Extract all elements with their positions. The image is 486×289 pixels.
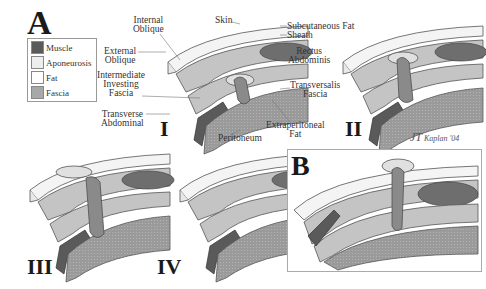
- label-transverse-abdominal: Transverse Abdominal: [101, 110, 144, 128]
- label-external-oblique: External Oblique: [104, 47, 136, 65]
- label-skin: Skin: [215, 16, 232, 25]
- panel-b-box: B: [287, 149, 482, 272]
- stage-label-ii: II: [345, 118, 362, 140]
- artist-signature: JT Kaplan '04: [410, 130, 459, 145]
- stage-label-iv: IV: [157, 256, 181, 278]
- label-extraperitoneal-fat: Extraperitoneal Fat: [266, 121, 325, 139]
- label-transversalis-fascia: Transversalis Fascia: [290, 81, 340, 99]
- label-internal-oblique: Internal Oblique: [133, 16, 164, 34]
- stage-label-iii: III: [27, 256, 53, 278]
- label-sheath: Sheath: [287, 31, 313, 40]
- label-peritoneum: Peritoneum: [218, 134, 262, 143]
- label-intermediate-investing-fascia: Intermediate Investing Fascia: [97, 71, 145, 98]
- label-rectus-abdominis: Rectus Abdominis: [288, 47, 330, 65]
- stage-label-i: I: [160, 118, 169, 140]
- panel-b-illustration: [288, 150, 481, 271]
